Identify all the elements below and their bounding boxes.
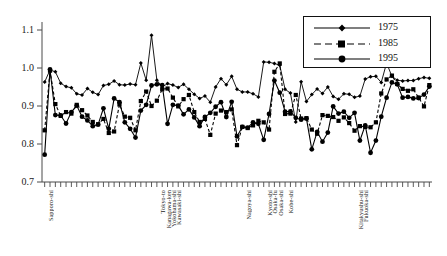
data-point-1995 xyxy=(42,152,47,157)
data-point-1985 xyxy=(112,129,116,133)
data-point-1995 xyxy=(277,90,282,95)
data-point-1995 xyxy=(203,115,208,120)
data-point-1975 xyxy=(240,90,244,94)
data-point-1995 xyxy=(245,125,250,130)
data-point-1995 xyxy=(101,106,106,111)
data-point-1985 xyxy=(406,89,410,93)
data-point-1995 xyxy=(187,107,192,112)
data-point-1995 xyxy=(64,121,69,126)
data-point-1995 xyxy=(128,126,133,131)
y-axis-tick-label: 0.9 xyxy=(4,100,34,111)
data-point-1985 xyxy=(181,97,185,101)
x-axis-tick-label: Sapporo-shi xyxy=(47,190,54,221)
data-point-1975 xyxy=(246,90,250,94)
data-point-1985 xyxy=(219,108,223,112)
data-point-1995 xyxy=(406,94,411,99)
data-point-1995 xyxy=(283,109,288,114)
data-point-1975 xyxy=(358,94,362,98)
data-point-1995 xyxy=(122,120,127,125)
data-point-1985 xyxy=(347,121,351,125)
x-axis-tick-label: Kawasaki-shi xyxy=(175,190,182,225)
data-point-1985 xyxy=(80,108,84,112)
data-point-1995 xyxy=(149,83,154,88)
data-point-1975 xyxy=(272,61,276,65)
data-point-1995 xyxy=(304,116,309,121)
data-point-1995 xyxy=(379,114,384,119)
data-point-1995 xyxy=(117,100,122,105)
legend-entry-1985: 1985 xyxy=(304,36,430,52)
data-point-1995 xyxy=(48,67,53,72)
data-point-1995 xyxy=(170,102,175,107)
data-point-1985 xyxy=(352,129,356,133)
data-point-1995 xyxy=(384,95,389,100)
data-point-1975 xyxy=(406,79,410,83)
data-point-1985 xyxy=(187,93,191,97)
data-point-1995 xyxy=(74,103,79,108)
y-axis-tick-label: 1.1 xyxy=(4,24,34,35)
data-point-1975 xyxy=(369,75,373,79)
data-point-1995 xyxy=(347,115,352,120)
data-point-1995 xyxy=(133,135,138,140)
data-point-1995 xyxy=(235,134,240,139)
data-point-1995 xyxy=(325,130,330,135)
data-point-1995 xyxy=(197,124,202,129)
data-point-1975 xyxy=(139,61,143,65)
data-point-1995 xyxy=(240,125,245,130)
data-point-1975 xyxy=(96,93,100,97)
data-point-1975 xyxy=(299,80,303,84)
data-point-1995 xyxy=(320,139,325,144)
data-point-1995 xyxy=(272,78,277,83)
data-point-1975 xyxy=(422,76,426,80)
data-point-1995 xyxy=(267,112,272,117)
data-point-1985 xyxy=(326,114,330,118)
data-point-1985 xyxy=(192,110,196,114)
data-point-1975 xyxy=(43,80,47,84)
data-point-1995 xyxy=(96,122,101,127)
data-point-1975 xyxy=(128,82,132,86)
data-point-1995 xyxy=(341,109,346,114)
data-point-1985 xyxy=(390,74,394,78)
data-point-1995 xyxy=(309,147,314,152)
data-point-1985 xyxy=(267,127,271,131)
data-point-1995 xyxy=(422,92,427,97)
data-point-1985 xyxy=(401,87,405,91)
data-point-1975 xyxy=(331,95,335,99)
data-point-1995 xyxy=(208,110,213,115)
data-point-1975 xyxy=(150,33,154,37)
legend-label-1995: 1995 xyxy=(378,52,398,63)
data-point-1995 xyxy=(58,113,63,118)
data-point-1975 xyxy=(101,83,105,87)
data-point-1975 xyxy=(256,95,260,99)
data-point-1985 xyxy=(384,77,388,81)
x-axis-tick-label: Nagoya-shi xyxy=(245,190,252,220)
data-point-1985 xyxy=(85,113,89,117)
data-point-1995 xyxy=(85,118,90,123)
data-point-1995 xyxy=(106,126,111,131)
data-point-1985 xyxy=(320,113,324,117)
data-point-1985 xyxy=(155,99,159,103)
data-point-1995 xyxy=(181,112,186,117)
data-point-1985 xyxy=(262,120,266,124)
data-point-1975 xyxy=(294,120,298,124)
data-point-1995 xyxy=(224,115,229,120)
data-point-1995 xyxy=(299,117,304,122)
x-axis-tick-label: Fukuoka-shi xyxy=(362,190,369,222)
data-point-1985 xyxy=(368,125,372,129)
data-point-1995 xyxy=(112,96,117,101)
data-point-1995 xyxy=(288,109,293,114)
data-point-1995 xyxy=(411,96,416,101)
data-point-1995 xyxy=(229,99,234,104)
data-point-1975 xyxy=(401,79,405,83)
data-point-1975 xyxy=(363,77,367,81)
data-point-1985 xyxy=(422,104,426,108)
data-point-1975 xyxy=(53,70,57,74)
data-point-1975 xyxy=(171,83,175,87)
data-point-1985 xyxy=(411,87,415,91)
data-point-1985 xyxy=(107,131,111,135)
data-point-1995 xyxy=(315,129,320,134)
x-axis-tick-label: Osaka-shi xyxy=(277,190,284,216)
data-point-1995 xyxy=(90,124,95,129)
data-point-1985 xyxy=(310,127,314,131)
legend-swatch-1975 xyxy=(312,20,372,36)
legend-entry-1995: 1995 xyxy=(304,51,430,67)
